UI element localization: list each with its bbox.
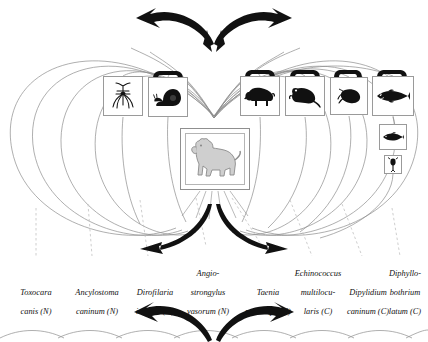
arrow-top-left <box>136 8 214 46</box>
label-line-2: vasorum (N) <box>177 307 239 317</box>
arrow-bottom-left <box>140 204 212 254</box>
arrow-top-right <box>214 8 292 46</box>
arrow-bottom-right <box>216 204 288 254</box>
label-line-1: bothrium <box>382 288 428 298</box>
label-line-0: Angio- <box>177 269 239 279</box>
label-line-0: Diphyllo- <box>382 269 428 279</box>
label-line-1: strongylus <box>177 288 239 298</box>
diagram-canvas: Toxocara canis (N) Ancylostoma caninum (… <box>0 0 428 342</box>
label-diphyllobothrium-latum: Diphyllo- bothrium latum (C) <box>382 259 428 326</box>
label-angiostrongylus-vasorum: Angio- strongylus vasorum (N) <box>177 259 239 326</box>
label-line-2: latum (C) <box>382 307 428 317</box>
